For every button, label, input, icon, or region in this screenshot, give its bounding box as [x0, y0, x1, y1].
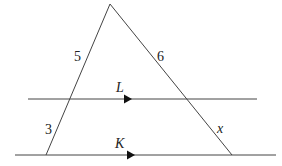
parallel-arrow-K-icon: [127, 151, 135, 160]
label-line-K: K: [114, 136, 125, 151]
diagram-canvas: 5 6 L 3 x K: [0, 0, 282, 166]
triangle-right-side: [110, 4, 232, 155]
triangle-left-side: [46, 4, 110, 155]
geometry-diagram: 5 6 L 3 x K: [0, 0, 282, 166]
label-line-L: L: [115, 80, 124, 95]
label-left-lower: 3: [45, 122, 52, 137]
parallel-arrow-L-icon: [124, 95, 132, 104]
label-right-lower: x: [216, 121, 224, 136]
label-right-upper: 6: [157, 49, 164, 64]
label-left-upper: 5: [74, 49, 81, 64]
